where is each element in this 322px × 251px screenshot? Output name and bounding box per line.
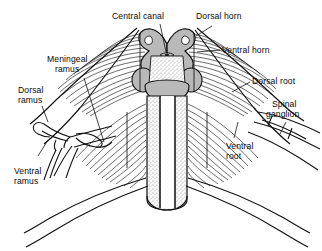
label-ventral-ramus-line1: Ventral (14, 166, 41, 176)
label-dorsal-root: Dorsal root (252, 76, 295, 86)
label-spinal-ganglion-line1: Spinal (272, 99, 297, 109)
label-meningeal-ramus-line2: ramus (55, 64, 79, 74)
label-dorsal-horn: Dorsal horn (196, 11, 242, 21)
label-spinal-ganglion-line2: ganglion (266, 109, 299, 119)
spinal-cord-diagram: Central canal Dorsal horn Ventral horn D… (0, 0, 322, 251)
diagram-artwork (0, 0, 322, 251)
label-central-canal: Central canal (104, 11, 172, 21)
label-ventral-ramus-line2: ramus (14, 176, 38, 186)
label-dorsal-ramus-line2: ramus (18, 95, 42, 105)
label-ventral-horn: Ventral horn (222, 45, 270, 55)
label-ventral-root-line1: Ventral (226, 141, 253, 151)
label-dorsal-ramus-line1: Dorsal (18, 85, 43, 95)
label-meningeal-ramus-line1: Meningeal (47, 54, 88, 64)
label-ventral-root-line2: root (226, 151, 241, 161)
